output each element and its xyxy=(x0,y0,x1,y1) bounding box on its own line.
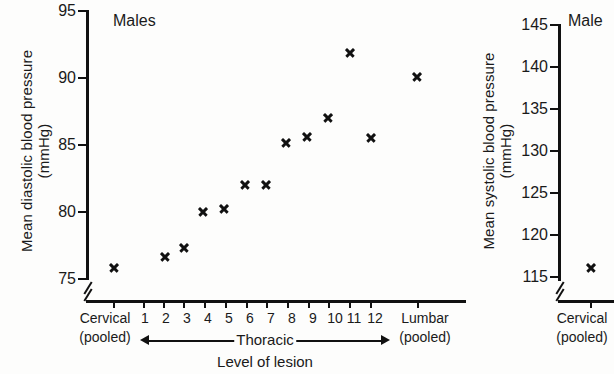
x-tick-t5 xyxy=(225,300,227,308)
x-tick-label-10: 10 xyxy=(327,310,343,326)
x-tick-t4 xyxy=(204,300,206,308)
x-tick-t8 xyxy=(287,300,289,308)
left-panel-title: Males xyxy=(113,12,156,30)
y-tick-85 xyxy=(78,144,86,146)
data-point-cervical xyxy=(109,263,120,274)
left-x-axis-title: Level of lesion xyxy=(217,353,313,370)
data-point-t3 xyxy=(198,207,209,218)
y-tick-145 xyxy=(550,24,558,26)
right-y-axis-line xyxy=(558,24,561,281)
x-tick-lumbar xyxy=(417,300,419,308)
x-tick-label-7: 7 xyxy=(267,310,275,326)
right-x-label-cervical-pooled: (pooled) xyxy=(556,329,607,345)
y-tick-label-90: 90 xyxy=(50,69,76,87)
y-tick-label-145: 145 xyxy=(508,16,548,34)
y-tick-label-140: 140 xyxy=(508,58,548,76)
y-tick-140 xyxy=(550,66,558,68)
y-tick-label-120: 120 xyxy=(508,226,548,244)
x-tick-label-11: 11 xyxy=(347,310,362,326)
y-tick-label-135: 135 xyxy=(508,100,548,118)
y-tick-label-130: 130 xyxy=(508,142,548,160)
x-tick-label-3: 3 xyxy=(183,310,191,326)
x-label-cervical-pooled: (pooled) xyxy=(79,329,130,345)
x-tick-label-5: 5 xyxy=(225,310,233,326)
left-y-axis-line xyxy=(86,10,89,280)
right-x-axis-line xyxy=(558,300,614,303)
x-tick-label-4: 4 xyxy=(204,310,212,326)
data-point-t4 xyxy=(219,204,230,215)
thoracic-label: Thoracic xyxy=(234,331,296,348)
data-point-t6 xyxy=(261,180,272,191)
x-tick-label-8: 8 xyxy=(288,310,296,326)
y-tick-90 xyxy=(78,77,86,79)
x-tick-t12 xyxy=(370,300,372,308)
x-label-lumbar: Lumbar xyxy=(401,310,448,326)
x-tick-label-6: 6 xyxy=(246,310,254,326)
right-x-tick-cervical xyxy=(590,300,592,308)
y-tick-label-85: 85 xyxy=(50,136,76,154)
left-y-axis-title: Mean diastolic blood pressure (mmHg) xyxy=(18,6,52,296)
right-chart-panel: Mean systolic blood pressure (mmHg) Male… xyxy=(470,0,614,374)
x-label-lumbar-pooled: (pooled) xyxy=(399,329,450,345)
x-tick-t2 xyxy=(163,300,165,308)
x-label-cervical: Cervical xyxy=(80,310,131,326)
thoracic-range-arrow: Thoracic xyxy=(140,332,390,350)
y-tick-label-75: 75 xyxy=(50,270,76,288)
right-panel-title: Male xyxy=(568,12,603,30)
data-point-t11 xyxy=(366,133,377,144)
arrow-head-right-icon xyxy=(381,335,390,345)
x-tick-t3 xyxy=(183,300,185,308)
left-axis-break-symbol xyxy=(80,281,96,301)
x-tick-t7 xyxy=(266,300,268,308)
data-point-t9 xyxy=(323,113,334,124)
y-tick-label-95: 95 xyxy=(50,2,76,20)
x-tick-t11 xyxy=(349,300,351,308)
y-tick-125 xyxy=(550,192,558,194)
x-tick-t10 xyxy=(328,300,330,308)
data-point-t8 xyxy=(302,132,313,143)
x-tick-t9 xyxy=(308,300,310,308)
right-axis-break-symbol xyxy=(552,281,568,301)
data-point-t10 xyxy=(345,48,356,59)
y-tick-80 xyxy=(78,211,86,213)
y-tick-130 xyxy=(550,150,558,152)
x-tick-cervical xyxy=(113,300,115,308)
right-y-axis-title-line1: Mean systolic blood pressure xyxy=(480,52,497,249)
data-point-t7 xyxy=(281,138,292,149)
y-tick-115 xyxy=(550,276,558,278)
x-tick-label-1: 1 xyxy=(141,310,149,326)
y-tick-135 xyxy=(550,108,558,110)
y-tick-label-80: 80 xyxy=(50,203,76,221)
y-tick-75 xyxy=(78,278,86,280)
right-x-label-cervical: Cervical xyxy=(557,310,608,326)
data-point-t5 xyxy=(240,180,251,191)
data-point-t1 xyxy=(160,252,171,263)
left-chart-panel: Mean diastolic blood pressure (mmHg) Mal… xyxy=(0,0,470,374)
left-y-axis-title-line1: Mean diastolic blood pressure xyxy=(18,50,35,252)
x-tick-t1 xyxy=(143,300,145,308)
data-point-t2 xyxy=(179,243,190,254)
right-data-point-cervical xyxy=(586,263,597,274)
y-tick-label-125: 125 xyxy=(508,184,548,202)
x-tick-label-12: 12 xyxy=(367,310,383,326)
x-tick-label-2: 2 xyxy=(162,310,170,326)
x-tick-t6 xyxy=(246,300,248,308)
y-tick-95 xyxy=(78,10,86,12)
data-point-lumbar xyxy=(412,72,423,83)
y-tick-label-115: 115 xyxy=(508,268,548,286)
y-tick-120 xyxy=(550,234,558,236)
x-tick-label-9: 9 xyxy=(309,310,317,326)
